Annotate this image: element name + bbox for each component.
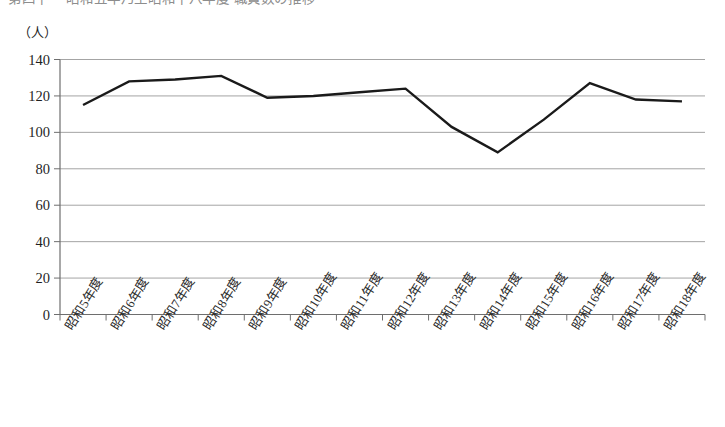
data-series-line	[83, 76, 682, 153]
y-tick-label: 20	[6, 271, 50, 286]
y-tick-label: 60	[6, 198, 50, 213]
y-tick-label: 0	[6, 308, 50, 323]
y-tick-label: 140	[6, 53, 50, 68]
chart-page: 第四十一 昭和五年乃至昭和十八年度 職員数の推移 （人） 02040608010…	[0, 0, 725, 427]
y-tick-label: 40	[6, 235, 50, 250]
y-tick-label: 100	[6, 125, 50, 140]
y-tick-label: 80	[6, 162, 50, 177]
y-tick-label: 120	[6, 89, 50, 104]
chart-canvas	[0, 0, 725, 427]
line-chart: 020406080100120140 昭和5年度昭和6年度昭和7年度昭和8年度昭…	[0, 0, 725, 427]
